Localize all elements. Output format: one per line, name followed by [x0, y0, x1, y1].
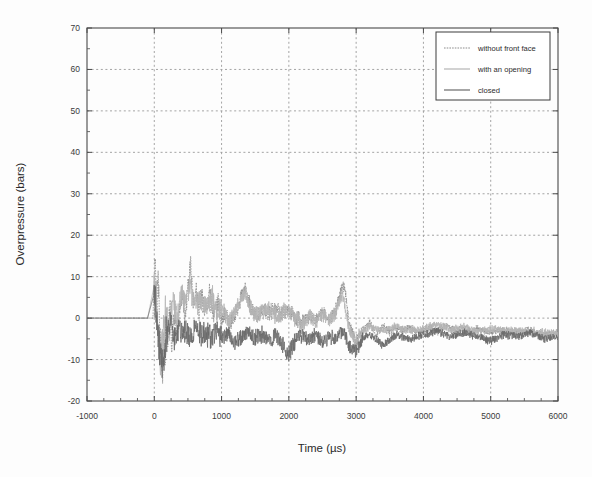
x-tick-label: 1000 [212, 411, 231, 421]
y-tick-label: 0 [75, 313, 80, 323]
legend-label-1: with an opening [477, 65, 531, 74]
x-tick-label: -1000 [76, 411, 98, 421]
y-tick-label: 20 [71, 230, 81, 240]
x-tick-label: 4000 [414, 411, 433, 421]
y-tick-label: 40 [71, 147, 81, 157]
y-tick-label: 10 [71, 272, 81, 282]
x-tick-label: 0 [152, 411, 157, 421]
x-tick-label: 5000 [481, 411, 500, 421]
overpressure-time-chart: -20-10010203040506070-100001000200030004… [0, 0, 592, 477]
y-tick-label: 50 [71, 106, 81, 116]
x-axis-title: Time (µs) [298, 442, 347, 454]
y-tick-label: -10 [68, 355, 81, 365]
chart-figure: -20-10010203040506070-100001000200030004… [0, 0, 592, 477]
chart-legend: without front facewith an openingclosed [436, 32, 550, 100]
x-tick-label: 3000 [347, 411, 366, 421]
x-tick-label: 6000 [549, 411, 568, 421]
y-tick-label: 60 [71, 64, 81, 74]
y-tick-label: 30 [71, 189, 81, 199]
y-axis-title: Overpressure (bars) [14, 162, 26, 265]
y-tick-label: -20 [68, 396, 81, 406]
x-tick-label: 2000 [279, 411, 298, 421]
y-tick-label: 70 [71, 23, 81, 33]
legend-label-2: closed [478, 86, 500, 95]
legend-label-0: without front face [477, 44, 536, 53]
